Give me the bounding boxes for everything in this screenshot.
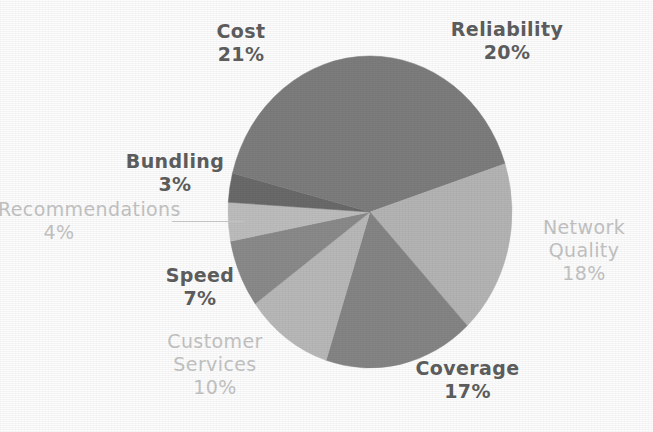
slice-label-speed: Speed 7% — [140, 264, 260, 310]
slice-label-bundling-name: Bundling — [110, 150, 240, 173]
slice-label-network-quality-line2: Quality — [524, 239, 644, 262]
slice-label-coverage-value: 17% — [400, 380, 535, 403]
slice-label-cost-name: Cost — [186, 20, 296, 43]
slice-label-speed-value: 7% — [140, 287, 260, 310]
slice-label-network-quality-value: 18% — [524, 262, 644, 285]
slice-label-reliability-value: 20% — [432, 41, 582, 64]
chart-canvas: Cost 21% Reliability 20% Network Quality… — [0, 0, 653, 432]
slice-label-speed-name: Speed — [140, 264, 260, 287]
slice-label-customer-services-line2: Services — [140, 353, 290, 376]
slice-label-network-quality: Network Quality 18% — [524, 216, 644, 286]
slice-label-recommendations-name: Recommendations — [0, 198, 198, 221]
slice-label-cost: Cost 21% — [186, 20, 296, 66]
pie-slice-group — [228, 56, 512, 368]
slice-label-bundling: Bundling 3% — [110, 150, 240, 196]
slice-label-network-quality-line1: Network — [524, 216, 644, 239]
slice-label-customer-services: Customer Services 10% — [140, 330, 290, 400]
slice-label-cost-value: 21% — [186, 43, 296, 66]
slice-label-reliability: Reliability 20% — [432, 18, 582, 64]
slice-label-recommendations: Recommendations 4% — [0, 198, 198, 244]
slice-label-customer-services-value: 10% — [140, 376, 290, 399]
slice-label-coverage: Coverage 17% — [400, 357, 535, 403]
slice-label-recommendations-value: 4% — [0, 221, 198, 244]
slice-label-bundling-value: 3% — [110, 173, 240, 196]
slice-label-reliability-name: Reliability — [432, 18, 582, 41]
slice-label-coverage-name: Coverage — [400, 357, 535, 380]
slice-label-customer-services-line1: Customer — [140, 330, 290, 353]
